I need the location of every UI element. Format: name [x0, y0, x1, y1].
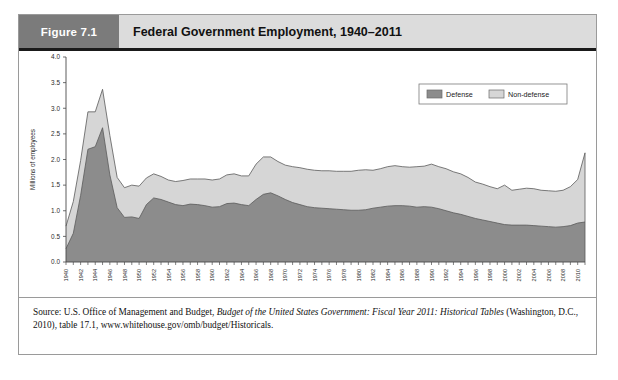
figure-header: Figure 7.1 Federal Government Employment… — [19, 15, 596, 51]
chart-legend: DefenseNon-defense — [419, 84, 567, 104]
x-tick-label: 1968 — [268, 269, 274, 281]
y-tick-label: 0.0 — [51, 258, 60, 265]
x-tick-label: 1956 — [180, 269, 186, 281]
x-tick-label: 1998 — [487, 269, 493, 281]
x-tick-label: 2004 — [531, 269, 537, 281]
source-prefix: Source: U.S. Office of Management and Bu… — [33, 307, 217, 317]
x-tick-label: 1978 — [341, 269, 347, 281]
x-tick-label: 1964 — [239, 269, 245, 281]
x-tick-label: 1944 — [92, 269, 98, 281]
y-tick-label: 1.5 — [51, 181, 60, 188]
x-tick-label: 2008 — [560, 269, 566, 281]
x-tick-label: 1962 — [224, 269, 230, 281]
x-tick-label: 1984 — [385, 269, 391, 281]
x-tick-label: 1958 — [195, 269, 201, 281]
x-tick-label: 1996 — [473, 269, 479, 281]
y-axis: 0.00.51.01.52.02.53.03.54.0 — [51, 53, 66, 265]
legend-swatch-defense — [427, 90, 442, 98]
x-tick-label: 2000 — [502, 269, 508, 281]
x-tick-label: 1952 — [151, 269, 157, 281]
x-tick-label: 1972 — [297, 269, 303, 281]
y-tick-label: 4.0 — [51, 53, 60, 60]
x-tick-label: 1970 — [282, 269, 288, 281]
x-tick-label: 1976 — [326, 269, 332, 281]
x-tick-label: 1988 — [414, 269, 420, 281]
legend-label-defense: Defense — [446, 90, 473, 99]
x-tick-label: 1960 — [209, 269, 215, 281]
figure-number-label: Figure 7.1 — [19, 15, 119, 48]
x-tick-label: 1974 — [312, 269, 318, 281]
x-tick-label: 1954 — [166, 269, 172, 281]
x-tick-label: 1942 — [78, 269, 84, 281]
x-tick-label: 2006 — [546, 269, 552, 281]
y-tick-label: 0.5 — [51, 233, 60, 240]
x-tick-label: 1948 — [122, 269, 128, 281]
x-tick-label: 1980 — [356, 269, 362, 281]
source-note: Source: U.S. Office of Management and Bu… — [19, 297, 596, 354]
y-tick-label: 3.0 — [51, 105, 60, 112]
y-tick-label: 2.5 — [51, 130, 60, 137]
y-axis-title: Millions of employees — [29, 129, 37, 190]
y-tick-label: 3.5 — [51, 79, 60, 86]
x-tick-label: 1966 — [253, 269, 259, 281]
figure-frame: Figure 7.1 Federal Government Employment… — [18, 14, 597, 355]
x-tick-label: 2010 — [575, 269, 581, 281]
x-tick-label: 1990 — [429, 269, 435, 281]
x-tick-label: 1986 — [399, 269, 405, 281]
x-tick-label: 2002 — [516, 269, 522, 281]
x-axis: 1940194219441946194819501952195419561958… — [63, 262, 585, 281]
x-tick-label: 1994 — [458, 269, 464, 281]
chart-plot-container: 0.00.51.01.52.02.53.03.54.0 194019421944… — [19, 51, 596, 299]
x-tick-label: 1940 — [63, 269, 69, 281]
x-tick-label: 1982 — [370, 269, 376, 281]
x-tick-label: 1992 — [443, 269, 449, 281]
employment-area-chart: 0.00.51.01.52.02.53.03.54.0 194019421944… — [19, 51, 596, 299]
legend-label-non-defense: Non-defense — [508, 90, 549, 99]
x-tick-label: 1950 — [136, 269, 142, 281]
chart-series-areas — [66, 89, 585, 262]
source-italic-title: Budget of the United States Government: … — [217, 307, 504, 317]
y-tick-label: 1.0 — [51, 207, 60, 214]
legend-swatch-non-defense — [489, 90, 504, 98]
x-tick-label: 1946 — [107, 269, 113, 281]
figure-title: Federal Government Employment, 1940–2011 — [119, 15, 596, 48]
y-tick-label: 2.0 — [51, 156, 60, 163]
